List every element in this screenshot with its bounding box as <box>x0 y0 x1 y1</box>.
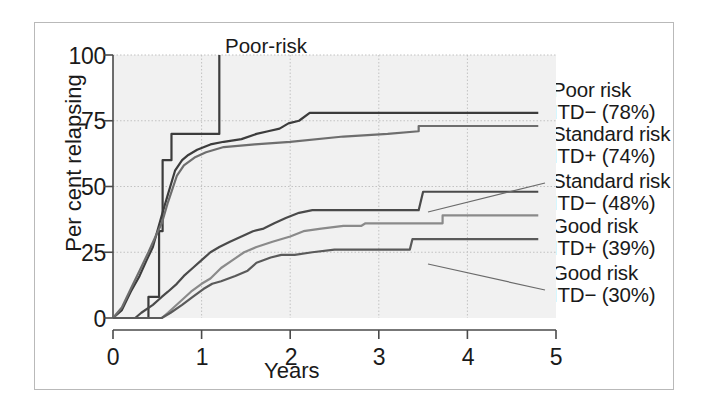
figure-root: 100 75 50 25 0 0 1 2 3 4 5 Per cent rela… <box>0 0 703 412</box>
plot-canvas <box>0 0 703 412</box>
